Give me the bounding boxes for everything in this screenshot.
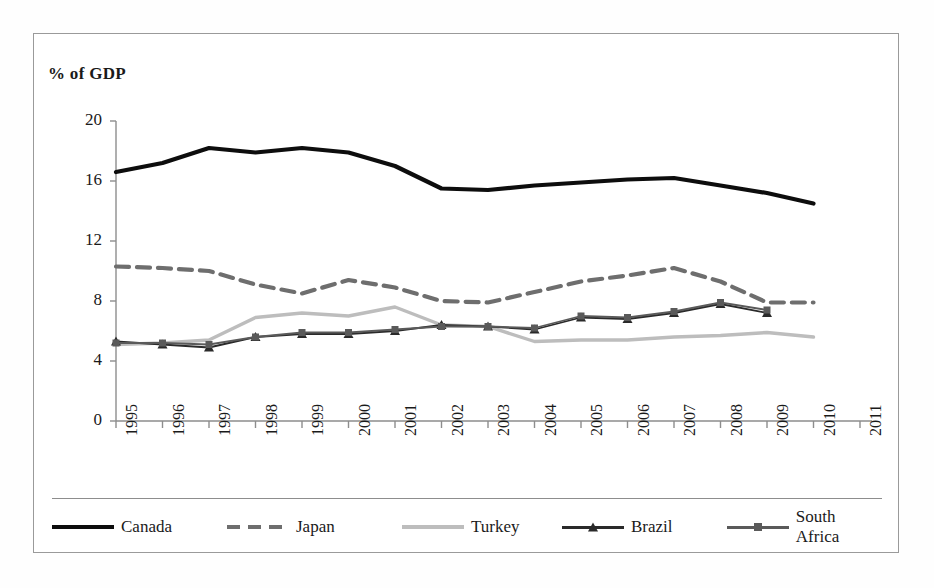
- legend-item-turkey[interactable]: Turkey: [402, 513, 520, 541]
- x-tick-label: 2008: [728, 404, 746, 436]
- y-tick-label: 4: [68, 350, 102, 370]
- legend-swatch-icon: [562, 520, 624, 534]
- legend-swatch-icon: [227, 520, 289, 534]
- legend-label: South Africa: [796, 507, 882, 547]
- x-tick-label: 2001: [402, 404, 420, 436]
- chart-legend: CanadaJapanTurkeyBrazilSouth Africa: [52, 498, 882, 541]
- legend-swatch-icon: [52, 520, 114, 534]
- x-tick-label: 2000: [356, 404, 374, 436]
- y-tick-label: 16: [68, 170, 102, 190]
- legend-label: Brazil: [631, 517, 673, 537]
- legend-swatch-icon: [727, 520, 789, 534]
- legend-item-south-africa[interactable]: South Africa: [727, 513, 882, 541]
- legend-swatch-icon: [402, 520, 464, 534]
- x-tick-label: 1996: [170, 404, 188, 436]
- x-tick-label: 2010: [821, 404, 839, 436]
- x-tick-label: 2011: [867, 405, 885, 436]
- y-tick-label: 20: [68, 110, 102, 130]
- chart-frame: [33, 33, 899, 553]
- y-tick-label: 8: [68, 290, 102, 310]
- x-tick-label: 2006: [635, 404, 653, 436]
- x-tick-label: 2005: [588, 404, 606, 436]
- x-tick-label: 1999: [309, 404, 327, 436]
- y-tick-label: 12: [68, 230, 102, 250]
- chart-axis-title: % of GDP: [48, 64, 126, 84]
- x-tick-label: 2007: [681, 404, 699, 436]
- x-tick-label: 2004: [542, 404, 560, 436]
- x-tick-label: 2003: [495, 404, 513, 436]
- legend-item-canada[interactable]: Canada: [52, 513, 172, 541]
- x-tick-label: 1998: [263, 404, 281, 436]
- y-tick-label: 0: [68, 410, 102, 430]
- legend-item-japan[interactable]: Japan: [227, 513, 335, 541]
- x-tick-label: 1997: [216, 404, 234, 436]
- x-tick-label: 2002: [449, 404, 467, 436]
- legend-item-brazil[interactable]: Brazil: [562, 513, 673, 541]
- x-tick-label: 1995: [123, 404, 141, 436]
- legend-marker-square-icon: [754, 523, 762, 531]
- legend-label: Japan: [296, 517, 335, 537]
- x-tick-label: 2009: [774, 404, 792, 436]
- legend-label: Canada: [121, 517, 172, 537]
- legend-label: Turkey: [471, 517, 520, 537]
- legend-marker-triangle-icon: [588, 523, 598, 532]
